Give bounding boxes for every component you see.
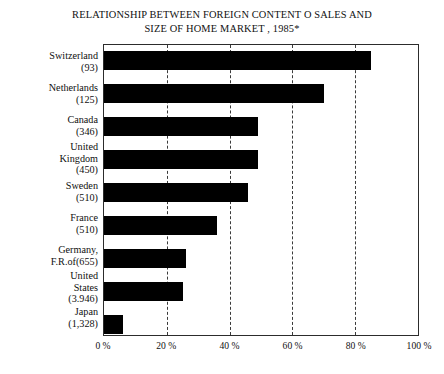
bar-row (104, 183, 418, 202)
category-name-united-kingdom-line-2: Kingdom (0, 153, 98, 165)
bar-row (104, 51, 418, 70)
category-label-japan: Japan (1,328) (0, 306, 98, 329)
bar-france (104, 216, 217, 235)
x-tick-label-0: 0 % (95, 340, 110, 352)
category-name-united-states-line-1: United (0, 270, 98, 282)
x-tick-label-80: 80 % (346, 340, 366, 352)
category-value-france: (510) (0, 224, 98, 236)
x-tick-label-20: 20 % (156, 340, 176, 352)
y-axis-category-labels: Switzerland (93) Netherlands (125) Canad… (0, 44, 101, 336)
category-label-netherlands: Netherlands (125) (0, 82, 98, 105)
x-axis-tick-labels: 0 % 20 % 40 % 60 % 80 % 100 % (0, 340, 444, 360)
bar-united-kingdom (104, 150, 258, 169)
chart-title-line-1: RELATIONSHIP BETWEEN FOREIGN CONTENT O S… (72, 9, 372, 20)
category-label-united-states: United States (3.946) (0, 270, 98, 305)
bar-united-states (104, 282, 183, 301)
bar-netherlands (104, 84, 324, 103)
category-name-sweden: Sweden (0, 180, 98, 192)
bars-layer (104, 45, 418, 335)
bar-sweden (104, 183, 248, 202)
category-value-japan: (1,328) (0, 318, 98, 330)
category-value-switzerland: (93) (0, 62, 98, 74)
category-value-netherlands: (125) (0, 94, 98, 106)
bar-row (104, 216, 418, 235)
category-value-united-kingdom: (450) (0, 164, 98, 176)
bar-japan (104, 315, 123, 334)
category-value-united-states: (3.946) (0, 293, 98, 305)
chart-title: RELATIONSHIP BETWEEN FOREIGN CONTENT O S… (0, 8, 444, 35)
category-name-germany-line-2: F.R.of(655) (0, 256, 98, 268)
x-tick-label-100: 100 % (407, 340, 432, 352)
chart-title-line-2: SIZE OF HOME MARKET , 1985* (0, 22, 444, 36)
category-label-sweden: Sweden (510) (0, 180, 98, 203)
category-name-japan: Japan (0, 306, 98, 318)
category-name-germany-line-1: Germany, (0, 244, 98, 256)
bar-row (104, 282, 418, 301)
bar-row (104, 117, 418, 136)
category-label-switzerland: Switzerland (93) (0, 50, 98, 73)
category-value-sweden: (510) (0, 192, 98, 204)
category-name-canada: Canada (0, 114, 98, 126)
category-label-united-kingdom: United Kingdom (450) (0, 141, 98, 176)
chart-figure: RELATIONSHIP BETWEEN FOREIGN CONTENT O S… (0, 0, 444, 374)
category-name-united-states-line-2: States (0, 282, 98, 294)
bar-row (104, 150, 418, 169)
bar-row (104, 249, 418, 268)
x-tick-label-40: 40 % (219, 340, 239, 352)
category-name-netherlands: Netherlands (0, 82, 98, 94)
plot-area (103, 44, 419, 336)
category-label-canada: Canada (346) (0, 114, 98, 137)
bar-row (104, 315, 418, 334)
bar-germany (104, 249, 186, 268)
x-tick-label-60: 60 % (283, 340, 303, 352)
category-name-switzerland: Switzerland (0, 50, 98, 62)
category-value-canada: (346) (0, 126, 98, 138)
bar-row (104, 84, 418, 103)
category-name-united-kingdom-line-1: United (0, 141, 98, 153)
bar-canada (104, 117, 258, 136)
category-label-germany: Germany, F.R.of(655) (0, 244, 98, 267)
bar-switzerland (104, 51, 371, 70)
category-label-france: France (510) (0, 212, 98, 235)
category-name-france: France (0, 212, 98, 224)
